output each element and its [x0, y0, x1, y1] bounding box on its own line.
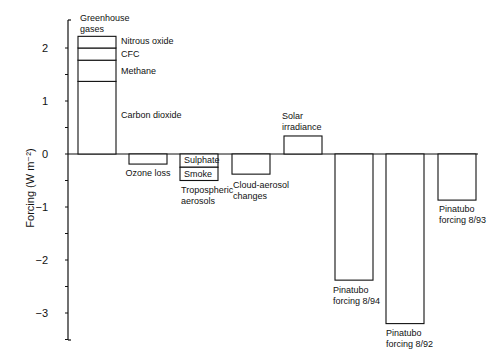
bar-segment-methane	[78, 60, 116, 81]
y-axis-label: Forcing (W m⁻²)	[24, 148, 36, 227]
bar-segment-nitrous-oxide	[78, 36, 116, 48]
label-cloud-aerosol-changes: Cloud-aerosol	[233, 180, 289, 190]
y-tick-label: 0	[42, 148, 48, 160]
label-pinatubo-8-94: Pinatubo	[333, 285, 369, 295]
bar-solar-irradiance	[284, 136, 322, 154]
label-smoke: Smoke	[184, 169, 212, 179]
label-greenhouse-gases: Greenhouse	[80, 13, 130, 23]
label-nitrous-oxide: Nitrous oxide	[121, 36, 174, 46]
bar-pinatubo-forcing-8-94	[335, 154, 373, 280]
y-tick-label: 1	[42, 95, 48, 107]
forcing-bar-chart: 210−1−2−3 GreenhousegasesNitrous oxideCF…	[0, 0, 499, 362]
bar-cloud-aerosol-changes	[232, 154, 270, 174]
label-tropospheric-aerosols: aerosols	[181, 196, 216, 206]
y-tick-label: 2	[42, 42, 48, 54]
bar-pinatubo-forcing-8-93	[438, 154, 476, 200]
y-tick-label: −1	[35, 201, 48, 213]
label-tropospheric-aerosols: Tropospheric	[181, 185, 234, 195]
label-pinatubo-8-92: Pinatubo	[386, 328, 422, 338]
bar-labels: GreenhousegasesNitrous oxideCFCMethaneCa…	[80, 13, 486, 349]
label-pinatubo-8-93: Pinatubo	[439, 204, 475, 214]
y-tick-label: −2	[35, 254, 48, 266]
label-cfc: CFC	[121, 49, 140, 59]
label-solar-irradiance: Solar	[282, 111, 303, 121]
label-methane: Methane	[121, 66, 156, 76]
label-pinatubo-8-94: forcing 8/94	[333, 296, 380, 306]
bar-pinatubo-forcing-8-92	[386, 154, 424, 324]
label-pinatubo-8-92: forcing 8/92	[386, 339, 433, 349]
y-tick-label: −3	[35, 307, 48, 319]
label-greenhouse-gases: gases	[80, 24, 105, 34]
bar-segment-cfc	[78, 48, 116, 60]
bar-segment-carbon-dioxide	[78, 81, 116, 154]
label-pinatubo-8-93: forcing 8/93	[439, 215, 486, 225]
label-sulphate: Sulphate	[184, 155, 220, 165]
label-carbon-dioxide: Carbon dioxide	[121, 110, 182, 120]
label-cloud-aerosol-changes: changes	[233, 191, 268, 201]
label-solar-irradiance: irradiance	[282, 122, 322, 132]
label-ozone-loss: Ozone loss	[125, 168, 171, 178]
bar-ozone-loss	[129, 154, 167, 164]
